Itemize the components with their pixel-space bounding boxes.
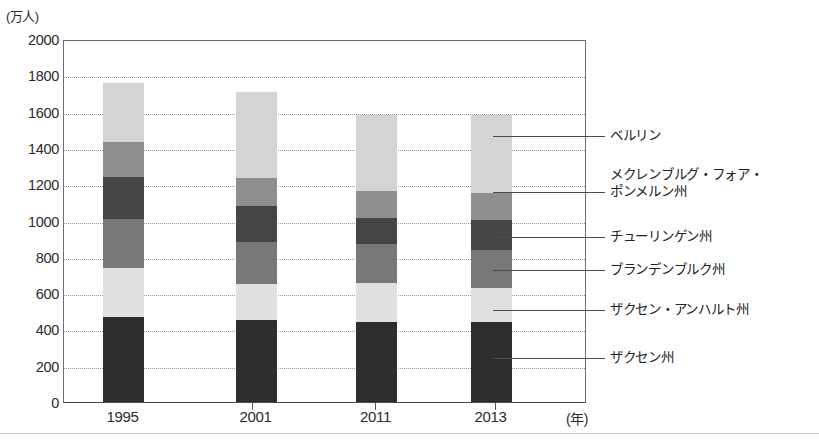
legend-label: ブランデンブルク州 bbox=[610, 261, 724, 278]
bar-segment bbox=[471, 288, 512, 322]
x-tick-label: 1995 bbox=[88, 408, 158, 425]
bar-segment bbox=[236, 284, 277, 320]
bar-segment bbox=[236, 92, 277, 178]
legend-leader-line bbox=[493, 192, 605, 193]
legend-leader-line bbox=[493, 310, 605, 311]
legend-label: チューリンゲン州 bbox=[610, 228, 712, 245]
y-tick-label: 0 bbox=[1, 395, 59, 411]
bar-segment bbox=[236, 320, 277, 402]
y-tick-label: 1800 bbox=[1, 68, 59, 84]
legend-leader-line bbox=[493, 270, 605, 271]
y-tick-label: 1200 bbox=[1, 177, 59, 193]
y-tick-label: 2000 bbox=[1, 32, 59, 48]
bar-segment bbox=[471, 322, 512, 402]
y-tick-label: 1000 bbox=[1, 214, 59, 230]
x-tick-label: 2001 bbox=[221, 408, 291, 425]
gridline bbox=[64, 77, 585, 78]
bar-segment bbox=[356, 115, 397, 191]
legend-label: ザクセン州 bbox=[610, 349, 674, 366]
bar-segment bbox=[236, 206, 277, 242]
bar-segment bbox=[356, 283, 397, 322]
bar-segment bbox=[356, 218, 397, 244]
x-axis-unit-label: (年) bbox=[566, 408, 588, 428]
x-axis-tick bbox=[375, 403, 376, 410]
x-tick-label: 2011 bbox=[341, 408, 411, 425]
y-tick-label: 400 bbox=[1, 322, 59, 338]
bar-segment bbox=[103, 219, 144, 268]
bar-2011 bbox=[356, 115, 397, 402]
bar-segment bbox=[356, 191, 397, 217]
bar-segment bbox=[471, 220, 512, 250]
bar-segment bbox=[356, 322, 397, 402]
y-axis-tick-labels: 2000180016001400120010008006004002000 bbox=[0, 40, 59, 403]
bar-segment bbox=[236, 178, 277, 206]
legend-label: メクレンブルグ・フォア・ ポンメルン州 bbox=[610, 166, 762, 200]
legend-leader-line bbox=[493, 358, 605, 359]
plot-area bbox=[63, 40, 586, 403]
legend-leader-line bbox=[493, 136, 605, 137]
bar-segment bbox=[471, 115, 512, 193]
bar-segment bbox=[103, 177, 144, 219]
y-tick-label: 1600 bbox=[1, 105, 59, 121]
legend-label: ザクセン・アンハルト州 bbox=[610, 301, 749, 318]
bar-1995 bbox=[103, 83, 144, 402]
legend-leader-line bbox=[493, 237, 605, 238]
bottom-divider bbox=[0, 433, 819, 434]
x-tick-label: 2013 bbox=[456, 408, 526, 425]
bar-segment bbox=[103, 317, 144, 402]
bar-segment bbox=[103, 268, 144, 317]
y-tick-label: 800 bbox=[1, 250, 59, 266]
y-tick-label: 600 bbox=[1, 286, 59, 302]
bar-segment bbox=[103, 83, 144, 143]
bar-segment bbox=[471, 193, 512, 219]
x-axis-tick bbox=[252, 403, 253, 410]
y-tick-label: 1400 bbox=[1, 141, 59, 157]
x-axis-tick bbox=[495, 403, 496, 410]
bar-2001 bbox=[236, 92, 277, 402]
legend-label: ベルリン bbox=[610, 127, 661, 144]
y-axis-unit-label: (万人) bbox=[6, 6, 39, 25]
y-tick-label: 200 bbox=[1, 359, 59, 375]
bar-segment bbox=[471, 250, 512, 288]
bar-segment bbox=[103, 142, 144, 176]
stacked-bar-chart: (万人) 20001800160014001200100080060040020… bbox=[0, 0, 819, 440]
bar-segment bbox=[236, 242, 277, 284]
bar-segment bbox=[356, 244, 397, 283]
